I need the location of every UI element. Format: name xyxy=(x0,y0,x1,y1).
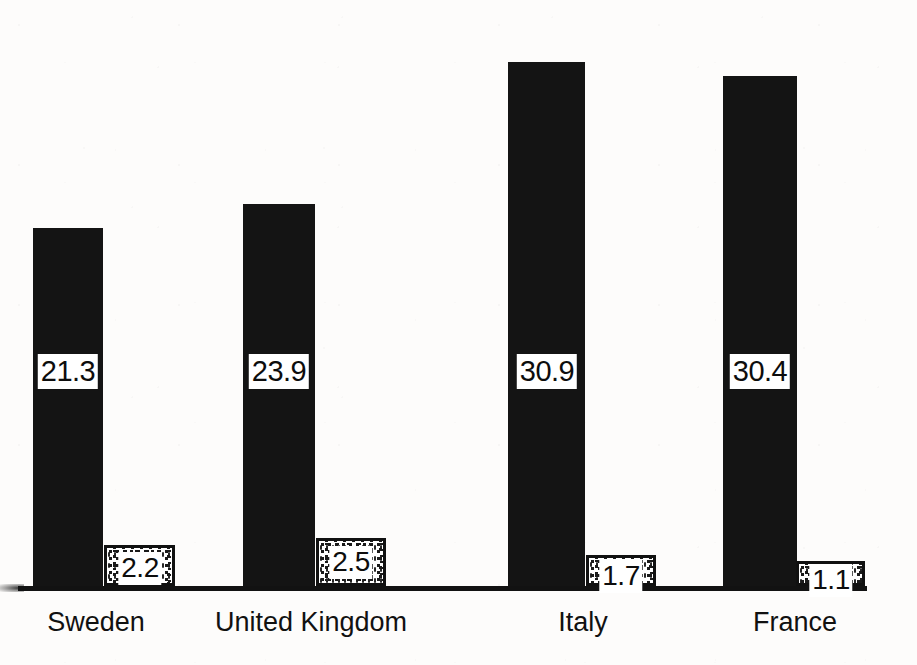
chart-page: 21.3 2.2 Sweden 23.9 2.5 United Kingdom … xyxy=(0,0,917,665)
category-label-sweden: Sweden xyxy=(47,606,145,638)
bar-dark-sweden xyxy=(33,228,103,586)
category-label-italy: Italy xyxy=(558,606,608,638)
value-label-dark-italy: 30.9 xyxy=(517,354,577,389)
value-label-dark-france: 30.4 xyxy=(730,354,790,389)
value-label-stipple-sweden: 2.2 xyxy=(118,552,161,585)
bar-chart-plot-area: 21.3 2.2 Sweden 23.9 2.5 United Kingdom … xyxy=(0,0,917,665)
value-label-stipple-united-kingdom: 2.5 xyxy=(329,546,372,579)
bar-dark-italy xyxy=(508,62,585,586)
value-label-stipple-france: 1.1 xyxy=(809,564,852,597)
value-label-dark-united-kingdom: 23.9 xyxy=(249,354,309,389)
value-label-dark-sweden: 21.3 xyxy=(38,354,98,389)
value-label-stipple-italy: 1.7 xyxy=(599,560,642,593)
x-axis-line xyxy=(18,586,867,591)
category-label-united-kingdom: United Kingdom xyxy=(215,606,407,638)
bar-dark-france xyxy=(723,76,797,586)
bar-dark-united-kingdom xyxy=(243,204,315,586)
category-label-france: France xyxy=(753,606,837,638)
